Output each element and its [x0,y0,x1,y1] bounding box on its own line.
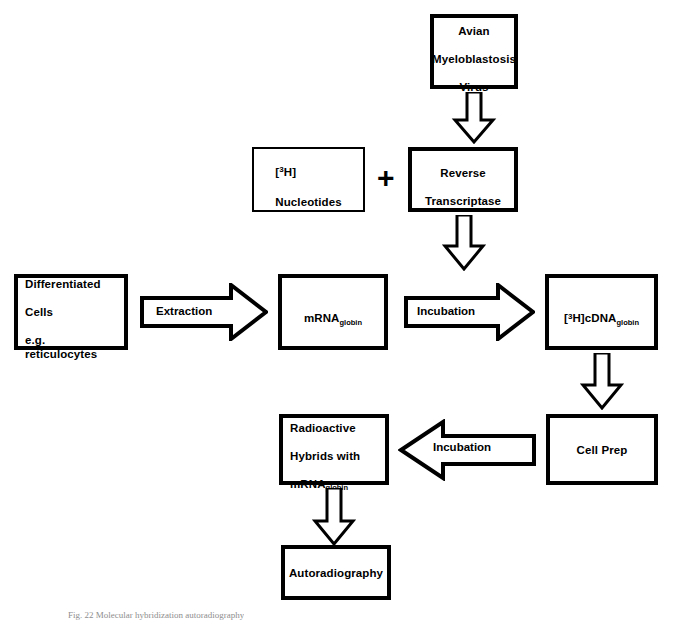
box-autoradiography: Autoradiography [281,545,391,600]
nucleotides-label: Nucleotides [275,196,341,208]
figure-caption: Fig. 22 Molecular hybridization autoradi… [68,610,244,620]
box-tritiated-cdna-globin-text: [3H]cDNAglobin [557,297,646,327]
plus-symbol: + [377,163,395,193]
flow-diagram-canvas: Avian Myeloblastosis Virus [3H] Nucleoti… [0,0,673,620]
box-differentiated-cells-text: Differentiated Cells e.g. reticulocytes [18,263,124,361]
isotope-h: H] [284,166,296,178]
hybrids-line-2: Hybrids with [290,450,360,462]
avian-line-2: Myeloblastosis [432,53,516,65]
arrow-transcriptase-to-cdna [440,215,488,271]
cells-line-1: Differentiated [25,278,101,290]
box-cell-prep: Cell Prep [546,414,658,485]
reverse-line-1: Reverse [440,167,485,179]
box-reverse-transcriptase-text: Reverse Transcriptase [418,152,508,208]
box-avian-myeloblastosis-virus: Avian Myeloblastosis Virus [430,14,518,89]
cdna-base: H]cDNA [572,312,616,324]
mrna-base: mRNA [304,312,340,324]
box-avian-myeloblastosis-virus-text: Avian Myeloblastosis Virus [425,10,523,94]
box-reverse-transcriptase: Reverse Transcriptase [408,147,518,212]
arrow-hybrids-to-autoradiography [310,488,358,546]
cells-line-3: e.g. reticulocytes [25,334,97,360]
box-radioactive-hybrids: Radioactive Hybrids with mRNAglobin [279,414,389,485]
box-tritiated-nucleotides: [3H] Nucleotides [252,147,365,212]
reverse-line-2: Transcriptase [425,195,501,207]
avian-line-1: Avian [458,25,489,37]
superscript-3: 3 [279,165,284,174]
cells-line-2: Cells [25,306,53,318]
box-mrna-globin-text: mRNAglobin [297,297,369,327]
arrow-virus-to-reverse-transcriptase [450,92,498,144]
box-differentiated-cells: Differentiated Cells e.g. reticulocytes [14,274,128,350]
arrow-extraction-label: Extraction [156,305,212,317]
mrna-subscript: globin [340,318,363,327]
arrow-cdna-to-cell-prep [578,353,626,410]
box-tritiated-nucleotides-text: [3H] Nucleotides [268,151,348,209]
avian-line-3: Virus [459,81,488,93]
arrow-incubation-bottom-label: Incubation [433,441,491,453]
cdna-superscript-3: 3 [568,312,573,321]
cdna-subscript: globin [617,318,640,327]
box-cell-prep-text: Cell Prep [570,443,635,457]
box-tritiated-cdna-globin: [3H]cDNAglobin [545,274,658,350]
box-autoradiography-text: Autoradiography [282,566,390,580]
nucleotides-isotope-line: [3H] [275,166,296,178]
arrow-incubation-top-label: Incubation [417,305,475,317]
box-mrna-globin: mRNAglobin [278,274,388,350]
box-radioactive-hybrids-text: Radioactive Hybrids with mRNAglobin [283,407,367,493]
hybrids-line-1: Radioactive [290,422,356,434]
